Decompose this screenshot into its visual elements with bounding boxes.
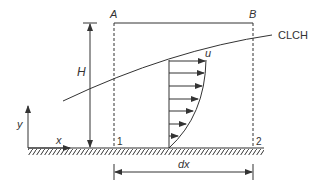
velocity-profile: [169, 60, 206, 148]
label-clch: CLCH: [278, 29, 308, 41]
boundary-layer-diagram: A B CLCH u H y x 1 2 dx: [0, 0, 324, 193]
label-point-a: A: [109, 8, 117, 20]
label-section-1: 1: [117, 136, 123, 147]
coordinate-axes: [28, 106, 70, 148]
label-x-axis: x: [55, 134, 62, 146]
label-velocity-u: u: [205, 47, 211, 59]
label-y-axis: y: [16, 118, 24, 130]
label-point-b: B: [249, 8, 256, 20]
label-section-2: 2: [256, 136, 262, 147]
label-dx: dx: [178, 158, 190, 170]
height-dimension: [83, 23, 97, 147]
ground-surface: [28, 148, 264, 155]
clch-curve: [63, 35, 272, 101]
label-height-h: H: [77, 65, 86, 79]
